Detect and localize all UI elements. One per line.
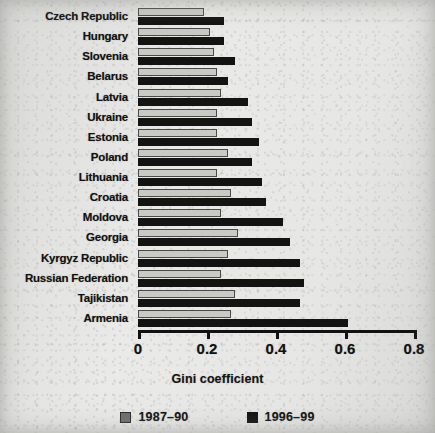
scan-vignette (0, 0, 435, 433)
